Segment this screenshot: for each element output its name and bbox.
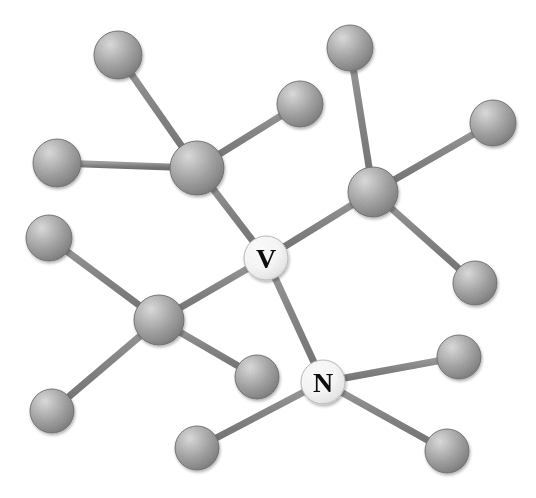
atom-sphere-labeled bbox=[301, 360, 345, 404]
atom-top-right-terminal bbox=[327, 25, 373, 71]
atom-left-upper-terminal bbox=[33, 139, 81, 187]
atom-bottom-center-inner-terminal bbox=[235, 355, 279, 399]
molecule-diagram-canvas: VN bbox=[0, 0, 536, 498]
atom-hub-top-right bbox=[348, 167, 398, 217]
molecule-svg-root: VN bbox=[0, 0, 536, 498]
atom-bottom-center-terminal bbox=[175, 426, 219, 470]
atom-sphere bbox=[348, 167, 398, 217]
atom-v-center[interactable]: V bbox=[244, 236, 288, 280]
atom-sphere bbox=[437, 335, 481, 379]
atom-sphere bbox=[453, 261, 497, 305]
atom-bottom-left-terminal bbox=[30, 389, 74, 433]
atom-right-middle-terminal bbox=[453, 261, 497, 305]
atom-bottom-right-terminal bbox=[425, 429, 469, 473]
atom-sphere bbox=[134, 295, 184, 345]
atom-sphere bbox=[94, 31, 142, 79]
atom-sphere bbox=[425, 429, 469, 473]
atom-sphere bbox=[30, 389, 74, 433]
atom-hub-bottom-left bbox=[134, 295, 184, 345]
atom-top-left-terminal bbox=[94, 31, 142, 79]
atom-top-center-terminal bbox=[277, 81, 323, 127]
atom-sphere bbox=[235, 355, 279, 399]
atom-hub-top-left bbox=[170, 141, 224, 195]
atom-right-upper-terminal bbox=[470, 100, 516, 146]
atom-sphere bbox=[327, 25, 373, 71]
atom-sphere-labeled bbox=[244, 236, 288, 280]
atom-left-middle-terminal bbox=[26, 215, 72, 261]
atom-sphere bbox=[277, 81, 323, 127]
atom-sphere bbox=[470, 100, 516, 146]
atom-sphere bbox=[33, 139, 81, 187]
atom-sphere bbox=[26, 215, 72, 261]
atom-bottom-right-upper-terminal bbox=[437, 335, 481, 379]
atom-sphere bbox=[175, 426, 219, 470]
atom-sphere bbox=[170, 141, 224, 195]
atom-n-center[interactable]: N bbox=[301, 360, 345, 404]
